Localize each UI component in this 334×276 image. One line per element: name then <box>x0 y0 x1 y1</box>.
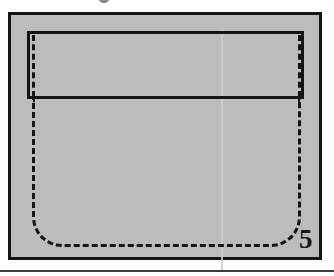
flap-stitch-right <box>298 35 301 97</box>
flap-stitch-left <box>32 35 35 97</box>
figure-container: 5 <box>0 0 334 276</box>
bottom-divider-rule <box>0 270 334 272</box>
pocket-body-stitch-outline <box>32 99 301 247</box>
top-cut-off-mark <box>99 0 109 3</box>
figure-number-label: 5 <box>299 226 313 253</box>
pocket-flap-outline <box>27 31 304 99</box>
